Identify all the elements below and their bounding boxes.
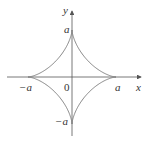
astroid-diagram: y x a −a −a a 0 xyxy=(0,0,144,144)
label-pos-y: a xyxy=(64,23,70,35)
y-axis-label: y xyxy=(62,4,68,16)
label-pos-x: a xyxy=(115,81,121,93)
x-axis-label: x xyxy=(135,81,141,93)
origin-label: 0 xyxy=(64,81,70,93)
label-neg-x: −a xyxy=(19,81,32,93)
label-neg-y: −a xyxy=(55,115,68,127)
